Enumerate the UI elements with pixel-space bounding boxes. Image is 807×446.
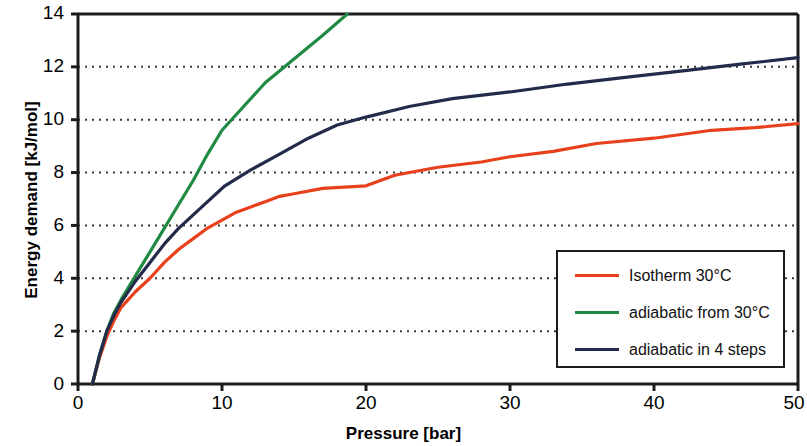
legend-swatch-adiabatic-from [575,311,619,314]
legend-label-adiabatic-steps: adiabatic in 4 steps [629,341,766,359]
legend-label-adiabatic-from: adiabatic from 30°C [629,304,770,322]
legend-entry-adiabatic-from: adiabatic from 30°C [558,293,783,332]
legend-swatch-adiabatic-steps [575,348,619,351]
chart-container: Energy demand [kJ/mol] Pressure [bar] 14… [0,0,807,446]
plot-area [0,0,807,446]
series-line-1 [92,14,347,384]
legend-entry-adiabatic-steps: adiabatic in 4 steps [558,330,783,369]
legend-entry-isotherm: Isotherm 30°C [558,256,783,295]
legend-swatch-isotherm [575,274,619,277]
legend: Isotherm 30°C adiabatic from 30°C adiaba… [556,250,785,368]
legend-label-isotherm: Isotherm 30°C [629,267,731,285]
